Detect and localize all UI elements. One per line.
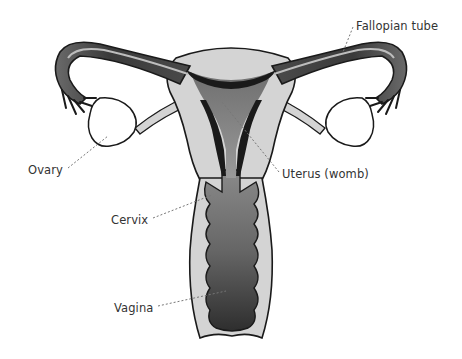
anatomy-illustration bbox=[0, 0, 462, 359]
ovary-left bbox=[88, 98, 136, 147]
label-fallopian-tube: Fallopian tube bbox=[356, 19, 438, 33]
label-vagina: Vagina bbox=[114, 301, 153, 315]
label-uterus: Uterus (womb) bbox=[282, 167, 369, 181]
vaginal-canal bbox=[205, 170, 259, 331]
label-ovary: Ovary bbox=[28, 163, 63, 177]
reproductive-diagram: Fallopian tube Ovary Uterus (womb) Cervi… bbox=[0, 0, 462, 359]
ovary-right bbox=[326, 98, 374, 147]
label-cervix: Cervix bbox=[111, 213, 148, 227]
